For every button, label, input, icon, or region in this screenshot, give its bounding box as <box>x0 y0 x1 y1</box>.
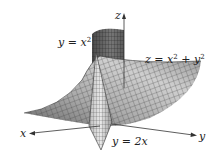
x-axis <box>33 126 100 133</box>
z-axis-label: z <box>115 10 121 21</box>
y-axis-label: y <box>199 131 205 142</box>
plane-equation-label: y = 2x <box>112 136 148 147</box>
y-axis <box>112 124 193 135</box>
cylinder-equation-label: y = x2 <box>58 37 91 48</box>
y-axis-arrow-icon <box>191 133 198 138</box>
z-axis-arrow-icon <box>122 13 126 19</box>
x-axis-arrow-icon <box>29 131 35 136</box>
x-axis-label: x <box>20 128 26 139</box>
paraboloid-surface <box>24 56 201 126</box>
paraboloid-equation-label: z = x2 + y2 <box>145 54 205 65</box>
3d-plot <box>0 0 223 154</box>
surface-intersection-figure: z x y y = x2 z = x2 + y2 y = 2x <box>0 0 223 154</box>
